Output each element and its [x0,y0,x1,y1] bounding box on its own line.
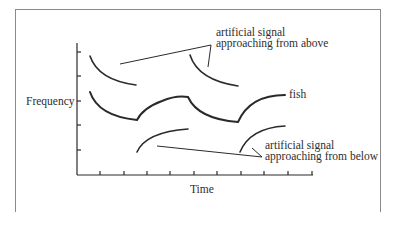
x-axis-label: Time [190,184,214,195]
artificial-signal-above-curves [90,55,238,86]
fish-curve [90,92,285,122]
annotation-line: approaching from above [216,38,328,49]
annotation-artificial-below: artificial signal approaching from below [265,140,378,162]
annotation-fish: fish [289,89,306,100]
annotation-line: approaching from below [265,151,378,162]
y-axis-label: Frequency [26,96,75,107]
artificial-signal-below-curves [137,126,285,152]
annotation-artificial-above: artificial signal approaching from above [216,27,328,49]
